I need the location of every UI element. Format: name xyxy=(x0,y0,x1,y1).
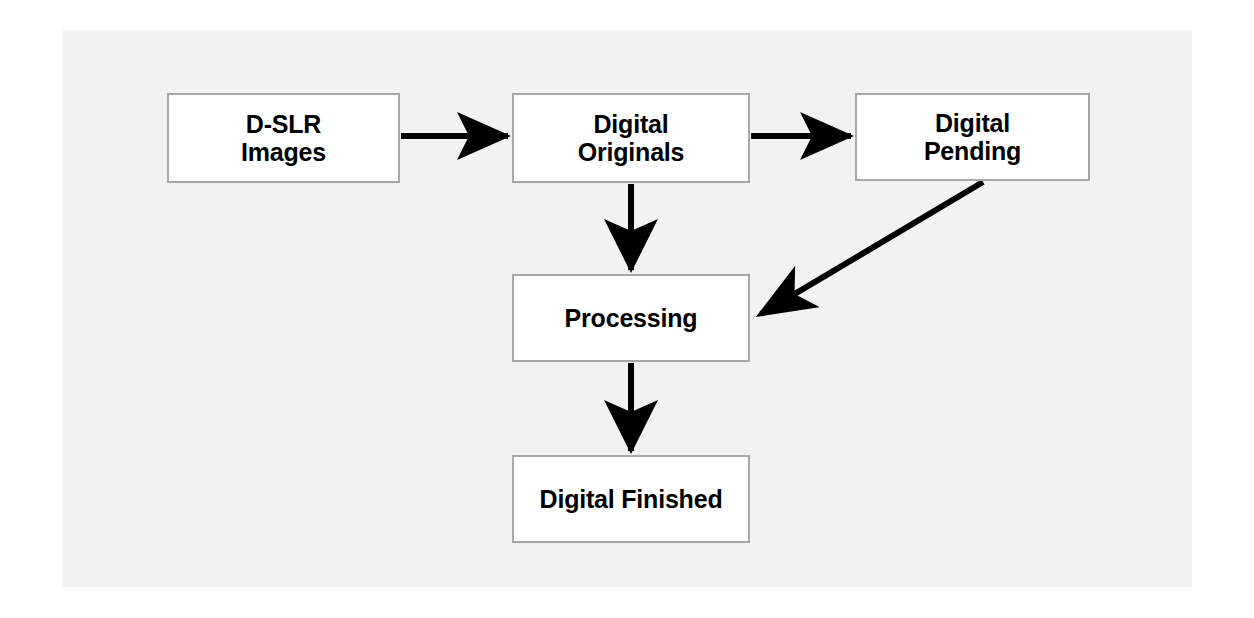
node-digital-pending[interactable]: Digital Pending xyxy=(855,93,1090,181)
node-label: Digital Pending xyxy=(924,109,1021,165)
node-digital-finished[interactable]: Digital Finished xyxy=(512,455,750,543)
node-label: D-SLR Images xyxy=(241,110,326,166)
node-label: Digital Finished xyxy=(540,485,723,513)
node-processing[interactable]: Processing xyxy=(512,274,750,362)
diagram-page: D-SLR Images Digital Originals Digital P… xyxy=(0,0,1254,618)
node-label: Digital Originals xyxy=(578,110,685,166)
node-digital-originals[interactable]: Digital Originals xyxy=(512,93,750,183)
edge-pending-to-processing xyxy=(761,182,983,314)
node-label: Processing xyxy=(565,304,698,332)
node-d-slr-images[interactable]: D-SLR Images xyxy=(167,93,400,183)
